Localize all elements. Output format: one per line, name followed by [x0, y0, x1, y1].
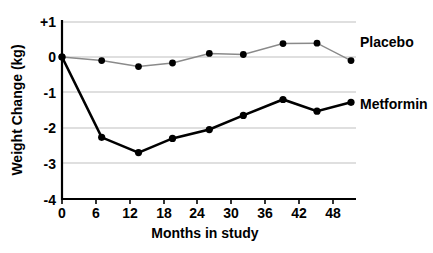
data-point [206, 126, 213, 133]
data-point [135, 149, 142, 156]
data-point [98, 57, 105, 64]
metformin-line [62, 57, 351, 153]
ytick-label-minus3: -3 [44, 156, 57, 172]
data-point [314, 40, 321, 47]
data-point [280, 40, 287, 47]
series-label-placebo: Placebo [360, 34, 414, 50]
data-point [240, 51, 247, 58]
xtick-label-0: 0 [58, 205, 66, 221]
ytick-label-plus1: +1 [40, 14, 56, 30]
x-axis-tick-labels: 0 6 12 18 24 30 36 42 48 [58, 205, 341, 221]
xtick-label-30: 30 [223, 205, 239, 221]
xtick-label-6: 6 [92, 205, 100, 221]
xtick-label-42: 42 [291, 205, 307, 221]
xtick-label-24: 24 [189, 205, 205, 221]
xtick-label-18: 18 [156, 205, 172, 221]
ytick-label-minus2: -2 [44, 120, 57, 136]
data-point [169, 60, 176, 67]
series-label-metformin: Metformin [360, 96, 428, 112]
ytick-label-minus4: -4 [44, 192, 57, 208]
ytick-label-minus1: -1 [44, 85, 57, 101]
ytick-label-0: 0 [48, 49, 56, 65]
y-axis-tick-labels: +1 0 -1 -2 -3 -4 [40, 14, 56, 208]
series-metformin [58, 53, 354, 156]
data-point [313, 108, 320, 115]
series-placebo [59, 40, 355, 70]
x-axis-title: Months in study [151, 225, 259, 241]
data-point [58, 53, 65, 60]
chart-figure: +1 0 -1 -2 -3 -4 0 6 12 18 24 30 36 42 4… [0, 0, 433, 253]
xtick-label-36: 36 [257, 205, 273, 221]
xtick-label-48: 48 [325, 205, 341, 221]
data-point [240, 112, 247, 119]
data-point [348, 57, 355, 64]
data-point [169, 135, 176, 142]
data-point [279, 96, 286, 103]
data-point [98, 134, 105, 141]
data-point [135, 63, 142, 70]
y-axis-title: Weight Change (kg) [9, 44, 25, 175]
xtick-label-12: 12 [122, 205, 138, 221]
metformin-markers [58, 53, 354, 156]
data-point [206, 50, 213, 57]
weight-change-line-chart: +1 0 -1 -2 -3 -4 0 6 12 18 24 30 36 42 4… [0, 0, 433, 253]
placebo-markers [59, 40, 355, 70]
data-point [347, 99, 354, 106]
